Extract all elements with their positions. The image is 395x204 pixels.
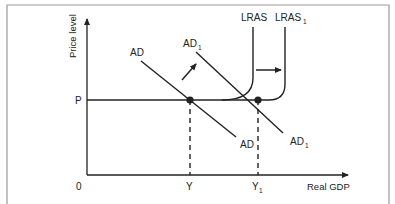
origin-label: 0 (76, 181, 82, 192)
price-level-label: P (75, 95, 82, 106)
x-axis-label: Real GDP (307, 181, 350, 192)
svg-text:1: 1 (303, 18, 307, 25)
svg-text:LRAS: LRAS (275, 12, 301, 23)
y-axis-label: Price level (67, 14, 78, 58)
ad1-label-top: AD 1 (183, 38, 202, 51)
svg-text:AD: AD (290, 136, 304, 147)
ad1-curve (196, 52, 283, 133)
ad1-label-bottom: AD 1 (290, 136, 309, 149)
equilibrium-point-ad (186, 96, 193, 103)
lras-label: LRAS (241, 12, 267, 23)
svg-text:1: 1 (259, 187, 263, 194)
ad-label-top: AD (130, 47, 144, 58)
equilibrium-point-ad1 (254, 96, 261, 103)
frame-border (7, 5, 389, 204)
y-label: Y (186, 181, 193, 192)
diagram-canvas: Price level Real GDP 0 P LRAS LRAS 1 AD … (0, 0, 395, 204)
ad-shift-arrow (182, 64, 196, 80)
lras-curve (222, 27, 253, 100)
lras1-label: LRAS 1 (275, 12, 307, 25)
y1-label: Y 1 (252, 181, 263, 194)
ad-label-bottom: AD (240, 139, 254, 150)
svg-text:1: 1 (305, 142, 309, 149)
svg-text:Y: Y (252, 181, 259, 192)
svg-text:1: 1 (198, 44, 202, 51)
svg-text:AD: AD (183, 38, 197, 49)
